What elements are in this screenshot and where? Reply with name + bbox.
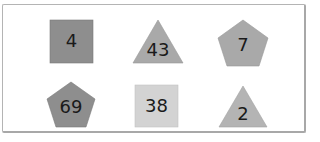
shape-pentagon-2: 69 <box>47 82 95 127</box>
shape-label: 43 <box>133 41 183 59</box>
shape-label: 2 <box>219 105 267 123</box>
shape-label: 4 <box>50 32 93 50</box>
shape-square-2: 38 <box>135 85 178 127</box>
shape-pentagon-1: 7 <box>218 20 268 66</box>
shape-square-1: 4 <box>50 20 93 63</box>
shape-triangle-2: 2 <box>219 86 267 127</box>
shape-label: 38 <box>135 97 178 115</box>
shape-label: 7 <box>218 36 268 54</box>
shape-label: 69 <box>47 98 95 116</box>
shape-triangle-1: 43 <box>133 20 183 63</box>
